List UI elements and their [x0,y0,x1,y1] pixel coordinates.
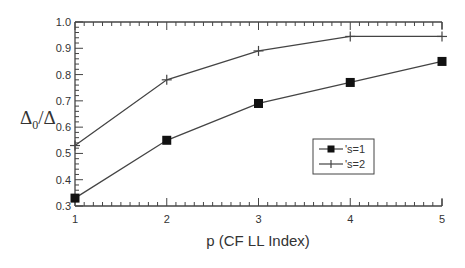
legend-marker-square [328,146,335,153]
axes: 0.30.40.50.60.70.80.91.012345 [56,16,445,225]
series-layer [70,31,447,202]
y-tick-label: 0.7 [56,95,71,107]
y-axis-title: Δ0/Δ [20,107,56,132]
data-point-square [346,78,355,87]
data-point-square [162,136,171,145]
y-tick-label: 0.4 [56,174,71,186]
y-tick-label: 0.5 [56,147,71,159]
x-axis-title: p (CF LL Index) [206,232,310,249]
x-tick-label: 3 [255,213,261,225]
x-tick-label: 1 [72,213,78,225]
data-point-square [254,99,263,108]
x-tick-label: 5 [439,213,445,225]
y-tick-label: 1.0 [56,16,71,28]
y-tick-label: 0.8 [56,69,71,81]
x-tick-label: 2 [164,213,170,225]
y-tick-label: 0.9 [56,42,71,54]
y-tick-label: 0.3 [56,200,71,212]
legend-label-s1: 's=1 [345,143,365,155]
data-point-square [71,194,80,203]
y-tick-label: 0.6 [56,121,71,133]
legend-label-s2: 's=2 [345,158,365,170]
data-point-square [438,57,447,66]
legend: 's=1 's=2 [313,139,374,174]
series-line-1 [75,61,442,198]
x-tick-label: 4 [347,213,353,225]
line-chart: 0.30.40.50.60.70.80.91.012345 's=1 's=2 … [0,0,465,268]
